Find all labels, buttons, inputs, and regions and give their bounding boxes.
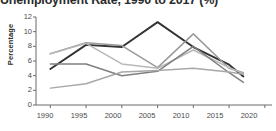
axes	[33, 17, 272, 108]
chart-container: Unemployment Rate, 1990 to 2017 (%) Perc…	[0, 0, 276, 131]
series-line-5	[50, 68, 243, 88]
data-series-group	[50, 22, 243, 88]
series-line-4	[50, 46, 243, 82]
series-line-1	[50, 22, 243, 76]
plot-area	[0, 0, 276, 131]
